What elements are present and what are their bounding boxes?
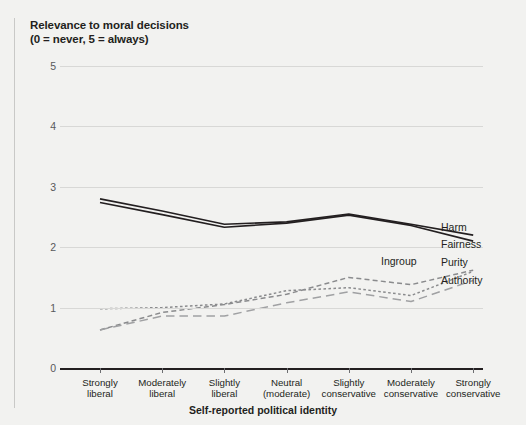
series-label-authority: Authority [441, 275, 482, 286]
x-axis-tick-mark [411, 368, 412, 373]
plot-area: 012345Strongly liberalModerately liberal… [44, 60, 500, 372]
chart-plot-svg [44, 60, 500, 372]
gridline [60, 308, 483, 309]
x-axis-tick-mark [162, 368, 163, 373]
x-axis-tick-mark [100, 368, 101, 373]
series-label-ingroup: Ingroup [381, 256, 417, 267]
figure-left-rule [14, 18, 15, 408]
y-axis-tick-label: 5 [34, 61, 56, 71]
gridline [60, 247, 483, 248]
x-axis-tick-mark [349, 368, 350, 373]
gridline [60, 187, 483, 188]
x-axis-title: Self-reported political identity [0, 404, 526, 416]
y-axis-tick-label: 1 [34, 303, 56, 313]
x-axis-tick-mark [224, 368, 225, 373]
series-label-harm: Harm [441, 222, 467, 233]
series-label-fairness: Fairness [441, 239, 481, 250]
series-line-authority [100, 280, 473, 330]
y-axis-tick-label: 0 [34, 363, 56, 373]
x-axis-tick-label: Strongly conservative [430, 377, 516, 399]
gridline [60, 66, 483, 67]
y-axis-tick-label: 3 [34, 182, 56, 192]
y-axis-tick-label: 2 [34, 242, 56, 252]
series-line-harm [100, 199, 473, 235]
gridline [60, 126, 483, 127]
series-label-purity: Purity [441, 257, 468, 268]
y-axis-tick-label: 4 [34, 121, 56, 131]
x-axis-line [60, 368, 483, 370]
x-axis-tick-mark [287, 368, 288, 373]
chart-title: Relevance to moral decisions (0 = never,… [30, 18, 360, 46]
x-axis-tick-mark [473, 368, 474, 373]
series-line-ingroup [100, 270, 473, 330]
chart-figure: Relevance to moral decisions (0 = never,… [0, 0, 526, 425]
